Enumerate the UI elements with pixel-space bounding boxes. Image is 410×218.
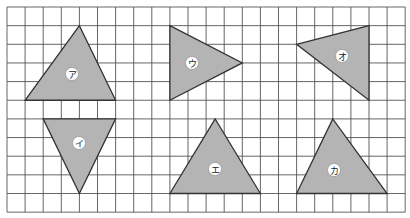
triangle-label: イ (75, 139, 84, 149)
triangle-label: ア (68, 70, 77, 80)
triangle-label: エ (211, 165, 220, 175)
triangle-label: ウ (188, 59, 197, 69)
triangle-label: オ (338, 52, 347, 62)
triangle-label: カ (330, 166, 339, 176)
triangle-grid-diagram: アイウオエカ (0, 0, 410, 218)
